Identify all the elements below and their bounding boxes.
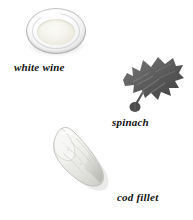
spinach-leaf-blade xyxy=(123,57,184,100)
caption-white-wine: white wine xyxy=(14,61,65,73)
spinach-image xyxy=(113,52,185,112)
spinach-stem xyxy=(136,92,143,104)
wine-liquid-surface xyxy=(37,19,75,45)
white-wine-image xyxy=(24,6,88,58)
ingredient-illustration-page: white wine xyxy=(0,0,193,220)
wine-glass-highlight xyxy=(38,11,62,19)
cod-fillet-image xyxy=(44,112,122,192)
caption-cod-fillet: cod fillet xyxy=(117,191,158,203)
spinach-leaf-icon xyxy=(113,52,185,112)
cod-fillet-icon xyxy=(44,112,122,192)
